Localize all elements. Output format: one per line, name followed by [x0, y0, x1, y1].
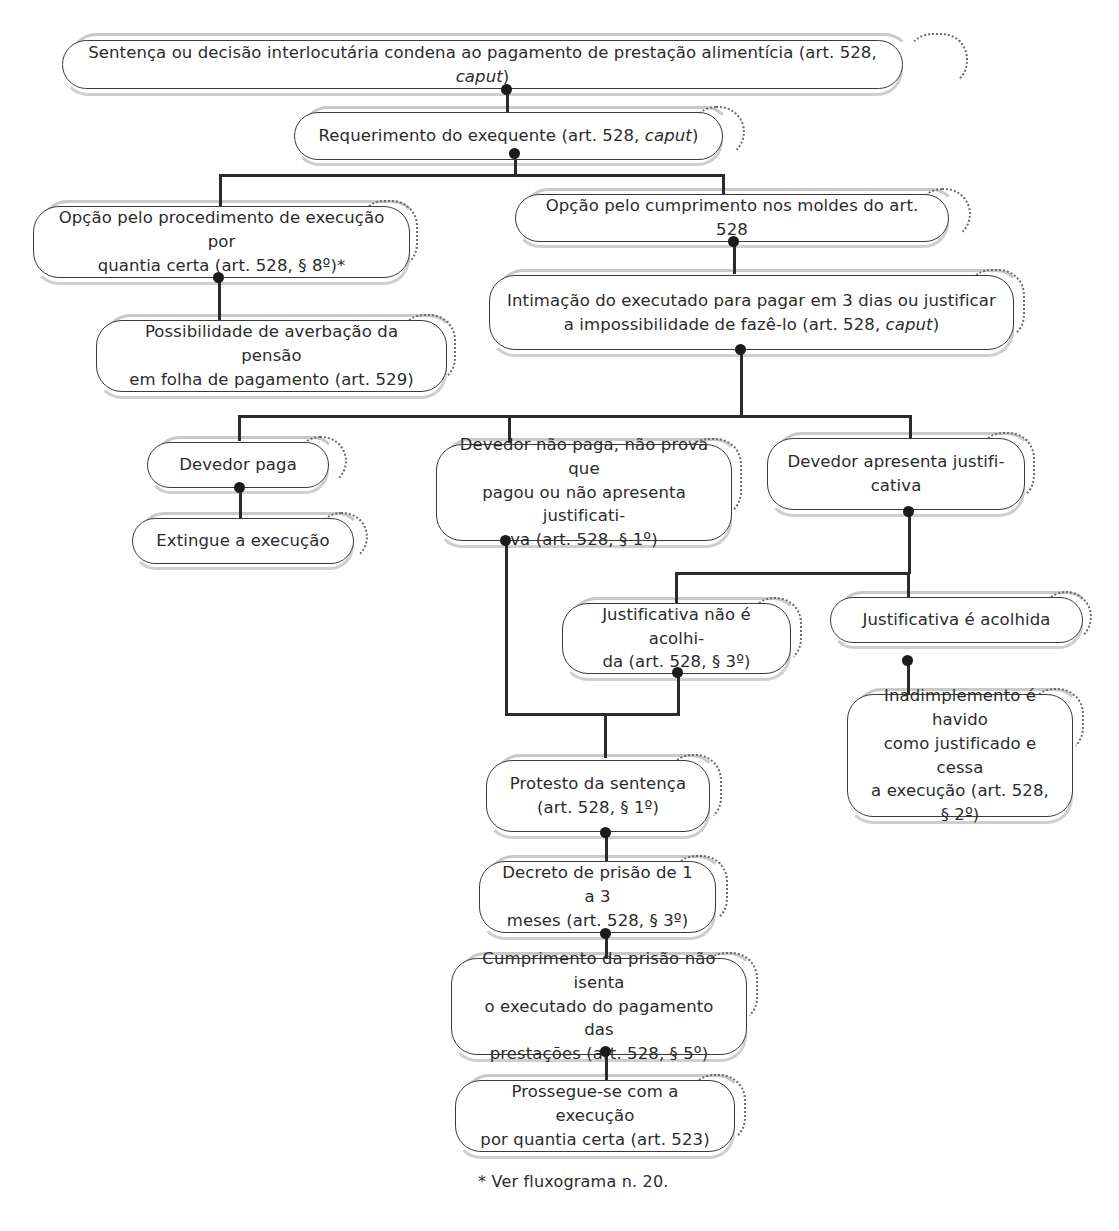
edge-dot — [672, 667, 683, 678]
edge-n6-drop-left — [238, 415, 241, 441]
node-inadimplemento-justificado[interactable]: Inadimplemento é havidocomo justificado … — [847, 694, 1073, 817]
node-label: Devedor apresenta justifi-cativa — [784, 450, 1008, 498]
node-cumprimento-prisao[interactable]: Cumprimento da prisão não isentao execut… — [451, 958, 747, 1055]
edge-dot — [501, 84, 512, 95]
node-label: Opção pelo procedimento de execução porq… — [50, 206, 393, 278]
node-label: Intimação do executado para pagar em 3 d… — [506, 289, 997, 337]
node-opcao-cumprimento-528[interactable]: Opção pelo cumprimento nos moldes do art… — [515, 194, 949, 242]
edge-n6-drop-right — [909, 415, 912, 438]
node-label: Requerimento do exequente (art. 528, cap… — [311, 124, 706, 148]
node-label: Protesto da sentença(art. 528, § 1º) — [503, 772, 693, 820]
edge-to-n14 — [604, 713, 607, 758]
node-opcao-execucao-quantia-certa[interactable]: Opção pelo procedimento de execução porq… — [33, 206, 410, 278]
edge-n6-bar — [238, 415, 912, 418]
edge-n9-stem — [908, 512, 911, 574]
edge-dot — [509, 148, 520, 159]
edge-dot — [728, 236, 739, 247]
node-devedor-apresenta-justificativa[interactable]: Devedor apresenta justifi-cativa — [767, 438, 1025, 510]
edge-n8-across — [505, 713, 680, 716]
edge-dot — [902, 655, 913, 666]
footnote: * Ver fluxograma n. 20. — [478, 1172, 669, 1191]
node-label: Justificativa é acolhida — [847, 608, 1066, 632]
flowchart-canvas: Sentença ou decisão interlocutária conde… — [0, 0, 1119, 1231]
node-protesto-sentenca[interactable]: Protesto da sentença(art. 528, § 1º) — [486, 760, 710, 832]
node-label: Sentença ou decisão interlocutária conde… — [79, 41, 886, 89]
node-label: Justificativa não é acolhi-da (art. 528,… — [579, 603, 774, 675]
node-devedor-nao-paga[interactable]: Devedor não paga, não prova quepagou ou … — [436, 444, 732, 541]
node-label: Extingue a execução — [149, 529, 337, 553]
edge-dot — [234, 482, 245, 493]
node-label: Devedor não paga, não prova quepagou ou … — [453, 433, 715, 553]
edge-dot — [213, 272, 224, 283]
edge-dot — [903, 506, 914, 517]
edge-n2-left-drop — [219, 174, 222, 206]
node-label: Opção pelo cumprimento nos moldes do art… — [532, 194, 932, 242]
node-label: Decreto de prisão de 1 a 3meses (art. 52… — [496, 861, 699, 933]
edge-dot — [600, 827, 611, 838]
node-intimacao-executado[interactable]: Intimação do executado para pagar em 3 d… — [489, 275, 1014, 350]
node-label: Possibilidade de averbação da pensãoem f… — [113, 320, 430, 392]
node-justificativa-nao-acolhida[interactable]: Justificativa não é acolhi-da (art. 528,… — [562, 603, 791, 674]
edge-n9-drop-right — [907, 572, 910, 597]
node-label: Inadimplemento é havidocomo justificado … — [864, 684, 1056, 828]
node-sentenca[interactable]: Sentença ou decisão interlocutária conde… — [62, 40, 903, 89]
node-decreto-prisao[interactable]: Decreto de prisão de 1 a 3meses (art. 52… — [479, 861, 716, 933]
node-label: Cumprimento da prisão não isentao execut… — [468, 947, 730, 1067]
edge-n3-n5 — [218, 277, 221, 320]
node-averbacao-pensao[interactable]: Possibilidade de averbação da pensãoem f… — [96, 320, 447, 392]
node-prossegue-execucao[interactable]: Prossegue-se com a execuçãopor quantia c… — [455, 1080, 735, 1152]
edge-dot — [600, 1046, 611, 1057]
edge-n2-bar — [219, 174, 725, 177]
node-label: Prossegue-se com a execuçãopor quantia c… — [472, 1080, 718, 1152]
edge-dot — [735, 344, 746, 355]
node-extingue-execucao[interactable]: Extingue a execução — [132, 518, 354, 564]
edge-dot — [600, 928, 611, 939]
node-justificativa-acolhida[interactable]: Justificativa é acolhida — [830, 597, 1083, 643]
edge-n2-right-drop — [722, 174, 725, 196]
edge-n9-drop-left — [675, 572, 678, 603]
edge-n8-down — [505, 538, 508, 715]
edge-n9-bar — [675, 572, 910, 575]
node-label: Devedor paga — [164, 453, 312, 477]
edge-n6-stem — [740, 351, 743, 417]
node-dotted-accent — [906, 33, 968, 87]
edge-dot — [500, 535, 511, 546]
